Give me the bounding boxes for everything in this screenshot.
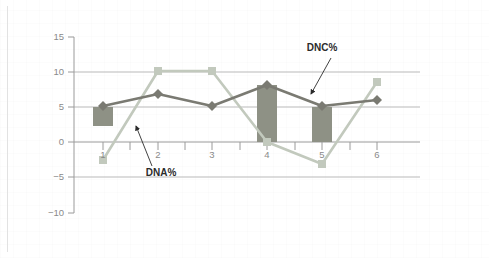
y-tick-label-0: 0 bbox=[59, 136, 64, 147]
x-tick-label-4: 4 bbox=[264, 149, 269, 160]
y-tick-label-neg5: −5 bbox=[53, 171, 64, 182]
x-tick-label-6: 6 bbox=[374, 149, 379, 160]
bar-category-5 bbox=[312, 107, 332, 142]
series-dnc-marker-3 bbox=[207, 101, 217, 111]
y-axis: 15 10 5 0 −5 −10 bbox=[48, 31, 74, 218]
series-dna-polyline bbox=[103, 71, 377, 164]
chart-screenshot: 15 10 5 0 −5 −10 bbox=[0, 0, 489, 258]
x-tick-label-3: 3 bbox=[209, 149, 214, 160]
annotation-dnc: DNC% bbox=[307, 42, 338, 94]
annotation-dnc-label: DNC% bbox=[307, 42, 338, 53]
annotation-dna-leader bbox=[136, 126, 152, 166]
y-tick-label-10: 10 bbox=[53, 66, 64, 77]
series-dna-marker-5 bbox=[318, 160, 326, 168]
series-dna-marker-4 bbox=[263, 138, 271, 146]
line-bar-chart: 15 10 5 0 −5 −10 bbox=[0, 0, 489, 258]
x-axis-labels: 1 2 3 4 5 6 bbox=[100, 149, 379, 160]
series-dna-marker-3 bbox=[208, 67, 216, 75]
x-tick-label-5: 5 bbox=[319, 149, 324, 160]
series-dna-line bbox=[99, 67, 381, 168]
y-tick-label-5: 5 bbox=[59, 101, 64, 112]
series-dnc-marker-6 bbox=[372, 95, 382, 105]
annotation-dnc-leader bbox=[311, 58, 331, 94]
series-dnc-marker-2 bbox=[153, 89, 163, 99]
y-tick-label-15: 15 bbox=[53, 31, 64, 42]
bar-series bbox=[93, 85, 332, 142]
y-tick-label-neg10: −10 bbox=[48, 207, 64, 218]
series-dna-marker-2 bbox=[154, 67, 162, 75]
x-tick-label-2: 2 bbox=[155, 149, 160, 160]
annotation-dna-label: DNA% bbox=[146, 167, 177, 178]
x-tick-label-1: 1 bbox=[100, 149, 105, 160]
series-dna-marker-6 bbox=[373, 78, 381, 86]
